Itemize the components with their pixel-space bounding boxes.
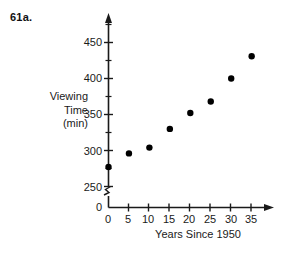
data-point xyxy=(187,110,193,116)
data-point xyxy=(248,53,254,59)
plot-area xyxy=(0,0,297,254)
data-point-series xyxy=(105,53,255,170)
axis-break-icon xyxy=(104,187,111,196)
data-point xyxy=(126,150,132,156)
data-point xyxy=(228,75,234,81)
data-point xyxy=(146,144,152,150)
chart-figure: 61a. Viewing Time (min) Years Since 1950… xyxy=(0,0,297,254)
data-point xyxy=(208,98,214,104)
x-axis-arrow-icon xyxy=(264,204,274,211)
data-point xyxy=(167,126,173,132)
y-axis-arrow-icon xyxy=(105,13,112,23)
data-point xyxy=(105,164,111,170)
